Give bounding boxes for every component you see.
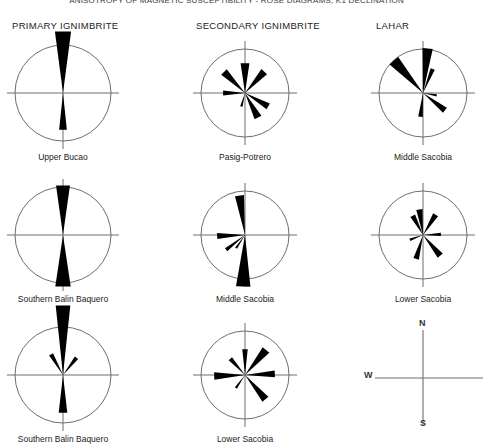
compass-west-label: W bbox=[364, 370, 373, 380]
rose-petal bbox=[49, 353, 63, 375]
rose-diagram-southern-balin-baquero-1 bbox=[0, 182, 138, 288]
compass-legend: N S W bbox=[348, 318, 487, 438]
rose-petal bbox=[229, 357, 245, 375]
rose-petal bbox=[390, 57, 423, 93]
rose-petal bbox=[423, 235, 443, 258]
rose-petal bbox=[235, 195, 245, 235]
rose-diagram-cell bbox=[170, 182, 320, 288]
rose-petal bbox=[245, 371, 275, 378]
site-label: Lower Sacobia bbox=[348, 294, 487, 304]
compass-south-label: S bbox=[420, 418, 426, 428]
rose-petal bbox=[423, 233, 441, 236]
site-label: Middle Sacobia bbox=[170, 294, 320, 304]
rose-diagram-middle-sacobia-lahar bbox=[348, 40, 487, 146]
rose-diagram-upper-bucao bbox=[0, 40, 138, 146]
site-label: Southern Balin Baquero bbox=[0, 294, 138, 304]
rose-petal bbox=[225, 235, 245, 251]
rose-diagram-cell bbox=[348, 40, 487, 146]
rose-diagram-lower-sacobia-lahar bbox=[348, 182, 487, 288]
site-label: Middle Sacobia bbox=[348, 152, 487, 162]
rose-diagram-lower-sacobia-secondary bbox=[170, 322, 320, 428]
compass-north-label: N bbox=[419, 318, 426, 328]
site-label: Pasig-Potrero bbox=[170, 152, 320, 162]
rose-petal bbox=[59, 93, 67, 130]
rose-petal bbox=[245, 347, 269, 375]
rose-petal bbox=[63, 356, 78, 375]
site-label: Lower Sacobia bbox=[170, 434, 320, 444]
rose-diagram-pasig-potrero bbox=[170, 40, 320, 146]
site-label: Upper Bucao bbox=[0, 152, 138, 162]
rose-petal bbox=[214, 372, 245, 380]
rose-petal bbox=[221, 69, 245, 93]
site-label: Southern Balin Baquero bbox=[0, 434, 138, 444]
rose-petal bbox=[245, 375, 268, 402]
rose-petal bbox=[59, 375, 68, 413]
rose-diagram-cell bbox=[0, 322, 138, 428]
rose-petal bbox=[240, 93, 245, 107]
rose-diagram-cell bbox=[0, 40, 138, 146]
rose-petal bbox=[245, 69, 267, 93]
rose-petal bbox=[242, 349, 247, 375]
rose-diagram-cell bbox=[0, 182, 138, 288]
rose-diagram-middle-sacobia-secondary bbox=[170, 182, 320, 288]
rose-diagram-southern-balin-baquero-2 bbox=[0, 322, 138, 428]
rose-petal bbox=[418, 93, 423, 117]
rose-petal bbox=[56, 185, 70, 235]
rose-petal bbox=[235, 375, 245, 389]
rose-petal bbox=[55, 235, 70, 286]
rose-petal bbox=[236, 235, 250, 287]
rose-diagram-cell bbox=[348, 182, 487, 288]
rose-diagram-cell bbox=[170, 322, 320, 428]
rose-diagram-cell bbox=[170, 40, 320, 146]
rose-petal bbox=[55, 32, 71, 93]
rose-petal bbox=[223, 91, 245, 96]
rose-petal bbox=[423, 213, 438, 235]
